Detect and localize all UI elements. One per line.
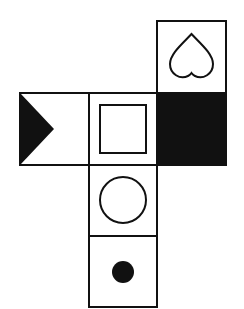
square-icon bbox=[100, 105, 146, 153]
face-heart bbox=[157, 21, 226, 93]
circle-icon bbox=[100, 177, 146, 223]
cube-net-diagram bbox=[0, 0, 244, 309]
dot-icon bbox=[112, 261, 134, 283]
face-solid-black bbox=[157, 93, 226, 165]
face-dot bbox=[89, 236, 157, 307]
face-triangle bbox=[20, 93, 89, 165]
face-square bbox=[89, 93, 157, 165]
face-circle bbox=[89, 165, 157, 236]
